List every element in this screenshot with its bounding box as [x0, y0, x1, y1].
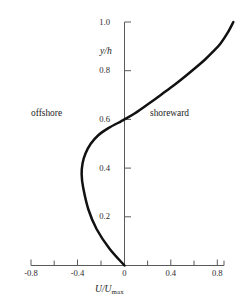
x-tick-label--0.4: -0.4	[61, 269, 95, 278]
x-axis-title: U/Umax	[95, 283, 124, 295]
x-axis-title-subscript: max	[112, 288, 124, 295]
x-axis-minor-ticks	[54, 261, 224, 266]
y-axis-title: y/h	[100, 45, 112, 56]
x-tick-label--0.8: -0.8	[14, 269, 48, 278]
velocity-profile-figure: · · · · · · ·	[0, 0, 247, 300]
plot-canvas	[0, 0, 247, 300]
y-tick-label-0.2: 0.2	[88, 212, 110, 221]
y-tick-label-0.8: 0.8	[88, 66, 110, 75]
velocity-profile-curve	[82, 22, 234, 266]
annotation-shoreward: shoreward	[150, 108, 189, 118]
annotation-offshore: offshore	[31, 108, 62, 118]
x-tick-label-0.4: 0.4	[154, 269, 188, 278]
x-axis-title-main: U/U	[95, 283, 112, 294]
y-tick-label-1.0: 1.0	[88, 18, 110, 27]
x-tick-label-0.8: 0.8	[200, 269, 234, 278]
x-tick-label-0: 0	[108, 269, 142, 278]
y-tick-label-0.4: 0.4	[88, 164, 110, 173]
y-tick-label-0.6: 0.6	[88, 115, 110, 124]
